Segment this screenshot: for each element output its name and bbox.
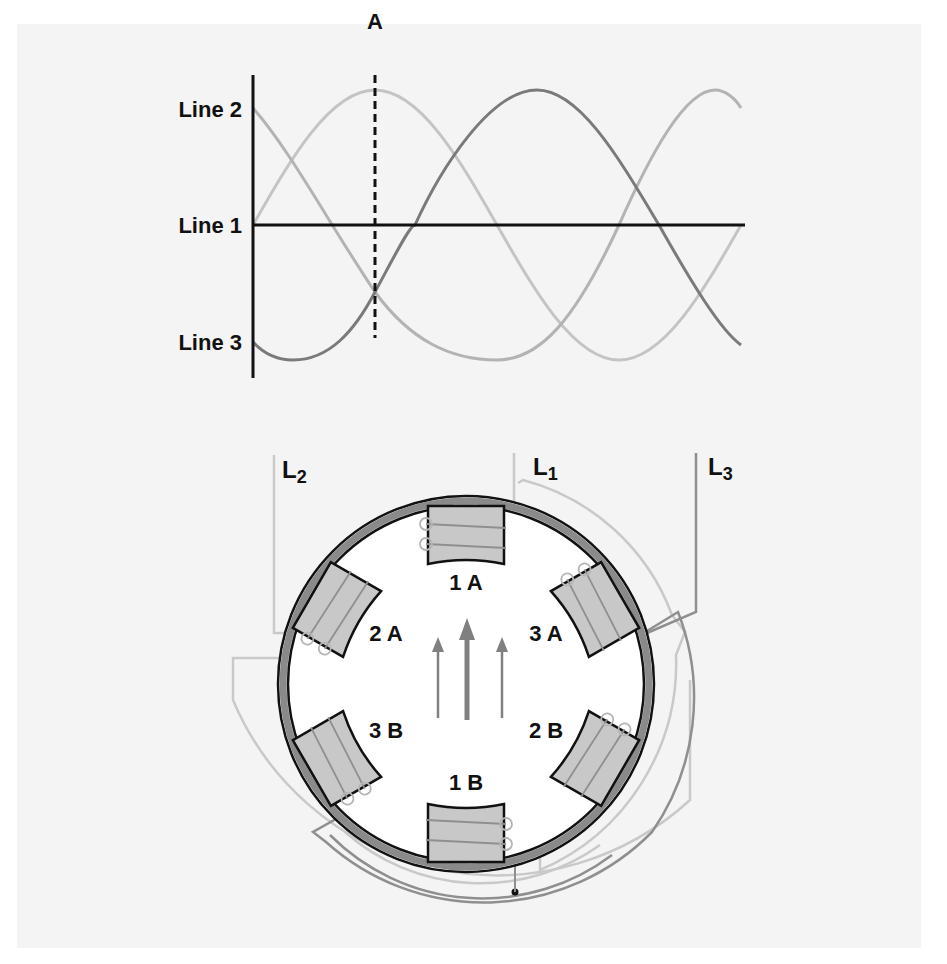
terminal-l2-label: L2 [282,456,307,487]
pole-label-1a: 1 A [449,570,483,595]
label-line2: Line 2 [178,97,242,122]
pole-label-3a: 3 A [529,621,563,646]
pole-1a [420,506,506,564]
three-phase-diagram: A Line 2 Line 1 Line 3 [0,0,947,964]
pole-1b [426,804,512,862]
pole-label-2b: 2 B [529,718,563,743]
terminal-l3-label: L3 [708,453,733,484]
label-line3: Line 3 [178,330,242,355]
pole-label-3b: 3 B [369,718,403,743]
waveform-chart: A Line 2 Line 1 Line 3 [178,9,745,378]
pole-label-2a: 2 A [369,621,403,646]
marker-a-label: A [367,9,383,34]
motor-diagram: 1 A 2 A 3 A 3 B 2 B 1 B L2 L1 L3 [233,453,733,902]
terminal-l1-label: L1 [533,453,558,484]
caption-cutoff [420,952,800,964]
pole-label-1b: 1 B [449,770,483,795]
l3-lead-wire [647,453,696,633]
label-line1: Line 1 [178,213,242,238]
